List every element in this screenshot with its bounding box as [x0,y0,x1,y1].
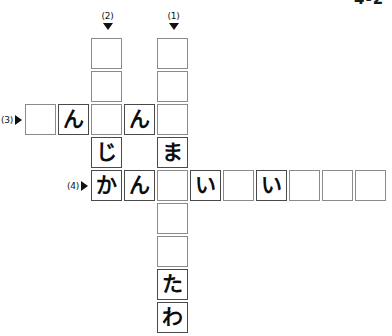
crossword-cell-filled[interactable]: わ [157,302,188,333]
crossword-cell-filled[interactable]: じ [91,137,122,168]
crossword-cell-empty[interactable] [322,170,353,201]
crossword-cell-empty[interactable] [25,104,56,135]
clue-number: (2) [101,12,113,21]
crossword-cell-filled[interactable]: い [190,170,221,201]
clue-number: (1) [167,12,179,21]
crossword-cell-empty[interactable] [91,71,122,102]
clue-marker-clue-4-across: (4) [67,181,88,191]
triangle-down-icon [103,23,113,30]
clue-marker-clue-1-down: (1) [157,12,190,30]
crossword-cell-empty[interactable] [157,170,188,201]
triangle-down-icon [169,23,179,30]
clue-number: (4) [67,182,79,191]
crossword-cell-filled[interactable]: ま [157,137,188,168]
crossword-cell-empty[interactable] [91,104,122,135]
crossword-cell-empty[interactable] [355,170,386,201]
crossword-cell-filled[interactable]: か [91,170,122,201]
crossword-cell-filled[interactable]: た [157,269,188,300]
crossword-cell-empty[interactable] [289,170,320,201]
triangle-right-icon [15,115,22,125]
crossword-cell-empty[interactable] [157,71,188,102]
crossword-cell-empty[interactable] [157,38,188,69]
crossword-cell-empty[interactable] [223,170,254,201]
crossword-cell-empty[interactable] [157,104,188,135]
triangle-right-icon [81,181,88,191]
crossword-cell-empty[interactable] [157,203,188,234]
clue-marker-clue-2-down: (2) [91,12,124,30]
clue-number: (3) [1,116,13,125]
crossword-cell-empty[interactable] [157,236,188,267]
corner-mark: 4-2 [354,0,388,5]
crossword-cell-filled[interactable]: い [256,170,287,201]
crossword-cell-empty[interactable] [91,38,122,69]
crossword-cell-filled[interactable]: ん [58,104,89,135]
crossword-cell-filled[interactable]: ん [124,104,155,135]
crossword-cell-filled[interactable]: ん [124,170,155,201]
crossword-puzzle: 4-2 んんじまかんいいたわ(2)(1)(3)(4) [0,0,392,336]
clue-marker-clue-3-across: (3) [1,115,22,125]
